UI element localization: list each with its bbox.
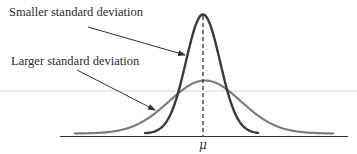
- narrow-curve-smaller-sd: [145, 15, 258, 134]
- label-larger-sd: Larger standard deviation: [11, 55, 139, 68]
- arrow-smaller-sd: [88, 27, 185, 55]
- arrow-larger-sd: [77, 70, 155, 110]
- normal-distribution-diagram: [0, 0, 357, 154]
- mean-label: μ: [199, 139, 207, 151]
- label-smaller-sd: Smaller standard deviation: [9, 6, 143, 19]
